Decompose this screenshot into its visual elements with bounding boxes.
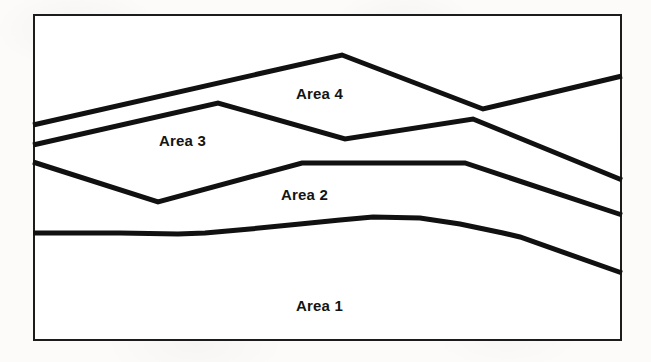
area-4-label: Area 4 [296,86,343,101]
chart-plot-frame [33,14,622,341]
scanned-page-background: Area 4 Area 3 Area 2 Area 1 [0,0,651,362]
area-3-label: Area 3 [159,133,206,148]
area-2-label: Area 2 [281,187,328,202]
area-1-label: Area 1 [296,298,343,313]
